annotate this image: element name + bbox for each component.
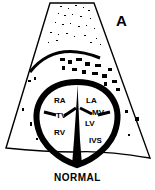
label-left-atrium: LA <box>86 97 97 105</box>
figure-caption: NORMAL <box>54 173 101 183</box>
label-left-ventricle: LV <box>85 120 95 128</box>
label-interventricular-septum: IVS <box>89 137 102 145</box>
panel-letter: A <box>116 13 127 28</box>
speckle-pattern <box>48 5 101 45</box>
ultrasound-sector-drawing <box>0 0 155 190</box>
interventricular-septum <box>72 84 82 165</box>
label-tricuspid-valve: TV <box>56 112 66 120</box>
myocardium-echoes <box>28 58 120 91</box>
label-right-ventricle: RV <box>54 129 65 137</box>
label-mitral-valve: MV <box>92 109 104 117</box>
label-right-atrium: RA <box>54 97 66 105</box>
